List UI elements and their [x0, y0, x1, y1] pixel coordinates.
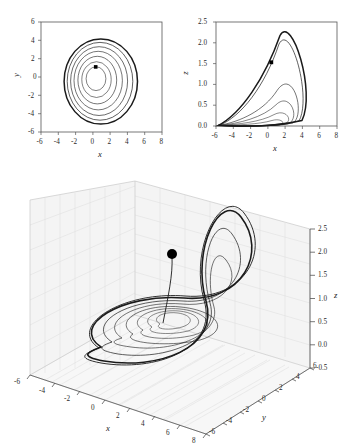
plot3d-ytick-6: 6 — [313, 362, 317, 370]
plot3d-ztick-n05: -0.5 — [316, 364, 327, 372]
plot3d-ztick-20: 2.0 — [318, 248, 327, 256]
xy-ytick-n4: -4 — [28, 110, 34, 118]
xy-xtick-6: 6 — [142, 138, 146, 146]
xz-xtick-0: 0 — [265, 132, 269, 140]
xz-ztick-15: 1.5 — [198, 60, 207, 68]
xy-xtick-0: 0 — [90, 138, 94, 146]
xz-xtick-n6: -6 — [212, 132, 218, 140]
xy-y-tickmarks — [38, 22, 41, 132]
xz-xtick-4: 4 — [300, 132, 304, 140]
plot3d-ytick-2: 2 — [279, 384, 283, 392]
plot3d-ztick-05: 0.5 — [318, 318, 327, 326]
plot3d-ztick-10: 1.0 — [318, 295, 327, 303]
plot3d-axis-label-y: y — [262, 412, 266, 422]
plot3d-ytick-0: 0 — [262, 395, 266, 403]
xy-ytick-6: 6 — [31, 18, 35, 26]
plot3d-ytick-n4: -4 — [226, 417, 232, 425]
xy-ytick-n6: -6 — [28, 128, 34, 136]
plot3d-xtick-n4: -4 — [39, 387, 45, 395]
plot3d-xtick-4: 4 — [141, 420, 145, 428]
xy-xtick-2: 2 — [108, 138, 112, 146]
xz-xtick-8: 8 — [335, 132, 339, 140]
xz-plot-frame — [216, 22, 337, 126]
plot3d-ytick-n6: -6 — [209, 428, 215, 436]
xz-xtick-n4: -4 — [229, 132, 235, 140]
xyz-3d-panel: 2.5 2.0 1.5 1.0 0.5 0.0 -0.5 z -6 -4 -2 … — [0, 172, 350, 434]
xz-xtick-n2: -2 — [246, 132, 252, 140]
plot3d-xtick-2: 2 — [116, 412, 120, 420]
xy-xtick-n2: -2 — [71, 138, 77, 146]
xz-ztick-20: 2.0 — [198, 39, 207, 47]
xy-ytick-4: 4 — [31, 37, 35, 45]
plot3d-ztick-25: 2.5 — [318, 225, 327, 233]
xz-projection-panel: 2.5 2.0 1.5 1.0 0.5 0.0 -6 -4 -2 0 2 4 6… — [175, 0, 350, 175]
xy-projection-panel: 6 4 2 0 -2 -4 -6 -6 -4 -2 0 2 4 6 8 y x — [0, 0, 175, 175]
xy-ytick-n2: -2 — [28, 92, 34, 100]
xz-initial-condition-marker — [269, 60, 273, 64]
xy-xtick-n6: -6 — [37, 138, 43, 146]
xy-ytick-2: 2 — [31, 55, 35, 63]
plot3d-xtick-8: 8 — [192, 437, 196, 445]
xy-xtick-n4: -4 — [54, 138, 60, 146]
plot3d-ytick-n2: -2 — [243, 406, 249, 414]
xz-axis-label-z: z — [180, 71, 190, 74]
xz-z-tickmarks — [213, 22, 216, 126]
xz-ztick-25: 2.5 — [198, 18, 207, 26]
plot3d-axis-label-z: z — [334, 290, 337, 300]
plot3d-xtick-0: 0 — [91, 404, 95, 412]
plot3d-ytick-4: 4 — [296, 373, 300, 381]
xy-axis-label-y: y — [11, 73, 21, 77]
plot3d-xtick-6: 6 — [166, 429, 170, 437]
plot3d-ztick-00: 0.0 — [318, 341, 327, 349]
xz-ztick-10: 1.0 — [198, 80, 207, 88]
plot3d-z-axis — [310, 229, 315, 368]
xy-plot-svg — [0, 0, 175, 175]
xz-xtick-2: 2 — [283, 132, 287, 140]
plot3d-svg — [0, 172, 350, 434]
plot3d-axis-label-x: x — [106, 423, 110, 433]
plot3d-initial-condition-marker — [167, 249, 177, 259]
xy-xtick-4: 4 — [125, 138, 129, 146]
xy-axis-label-x: x — [98, 149, 102, 159]
xy-initial-condition-marker — [94, 65, 98, 69]
xy-xtick-8: 8 — [160, 138, 164, 146]
xz-xtick-6: 6 — [317, 132, 321, 140]
xz-ztick-00: 0.0 — [198, 122, 207, 130]
plot3d-xtick-n2: -2 — [64, 395, 70, 403]
plot3d-ztick-15: 1.5 — [318, 271, 327, 279]
xz-axis-label-x: x — [273, 143, 277, 153]
plot3d-xtick-n6: -6 — [14, 378, 20, 386]
xy-ytick-0: 0 — [33, 73, 37, 81]
xz-ztick-05: 0.5 — [198, 101, 207, 109]
xy-x-tickmarks — [41, 132, 162, 135]
